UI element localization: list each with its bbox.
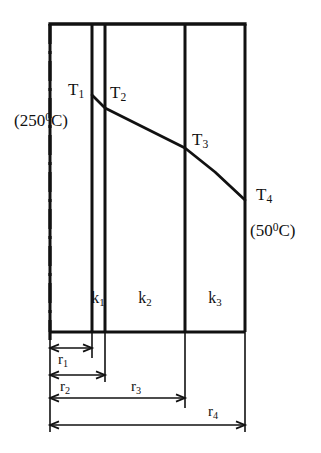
radius-label-r3: r3 xyxy=(131,379,141,396)
outer-temperature-value: (500C) xyxy=(250,222,295,239)
radius-label-r4: r4 xyxy=(208,404,218,421)
thermal-wall-diagram: T1 T2 T3 T4 (2500C) (500C) k1 k2 k3 r1 r… xyxy=(0,0,321,453)
radius-label-r1: r1 xyxy=(58,352,68,369)
inner-temperature-value: (2500C) xyxy=(14,112,68,129)
temperature-curve-group xyxy=(92,95,245,200)
conductivity-label-k2: k2 xyxy=(138,290,151,308)
temperature-label-t3: T3 xyxy=(192,131,208,151)
wall-outline-group xyxy=(48,24,246,332)
temperature-label-t4: T4 xyxy=(256,186,272,206)
temperature-profile-curve xyxy=(92,95,245,200)
conductivity-label-k3: k3 xyxy=(208,290,221,308)
temperature-label-t2: T2 xyxy=(110,84,126,104)
conductivity-label-k1: k1 xyxy=(91,290,104,308)
dimension-r1 xyxy=(50,344,92,351)
temperature-label-t1: T1 xyxy=(68,81,84,101)
dimension-r2 xyxy=(50,371,105,378)
layer-interface-lines xyxy=(92,24,185,332)
dimension-r4 xyxy=(50,421,245,428)
radius-label-r2: r2 xyxy=(60,379,70,396)
dimension-r3 xyxy=(50,394,185,401)
